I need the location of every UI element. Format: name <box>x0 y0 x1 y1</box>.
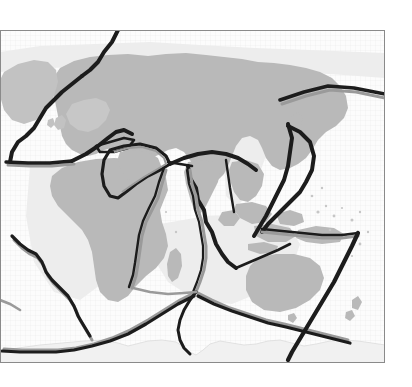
azores-gibraltar <box>6 161 72 163</box>
tectonic-plate-map <box>0 0 412 387</box>
map-canvas <box>0 0 412 387</box>
